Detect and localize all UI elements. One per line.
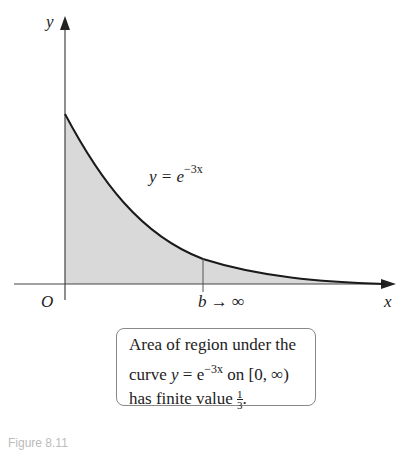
line2-var: y xyxy=(171,365,179,384)
line2-eq: = e xyxy=(179,365,205,384)
line3-prefix: has finite value xyxy=(129,389,237,408)
y-axis-arrow-icon xyxy=(60,16,70,30)
origin-label: O xyxy=(41,292,53,312)
line2-exp: −3x xyxy=(204,362,223,376)
annotation-line-1: Area of region under the xyxy=(129,333,315,357)
curve-label: y = e−3x xyxy=(149,164,203,187)
annotation-line-3: has finite value 13. xyxy=(129,387,315,411)
annotation-box: Area of region under the curve y = e−3x … xyxy=(116,328,316,406)
x-axis-label: x xyxy=(384,292,392,312)
figure-caption: Figure 8.11 xyxy=(8,436,68,450)
line3-suffix: . xyxy=(243,389,247,408)
b-tick-label: b → ∞ xyxy=(198,292,244,312)
curve-label-base: y = e xyxy=(149,167,184,186)
annotation-line-2: curve y = e−3x on [0, ∞) xyxy=(129,357,315,387)
line2-prefix: curve xyxy=(129,365,171,384)
shaded-area xyxy=(65,114,380,284)
curve-label-exponent: −3x xyxy=(184,162,203,176)
y-axis-label: y xyxy=(46,12,54,32)
line2-suffix: on [0, ∞) xyxy=(223,365,289,384)
